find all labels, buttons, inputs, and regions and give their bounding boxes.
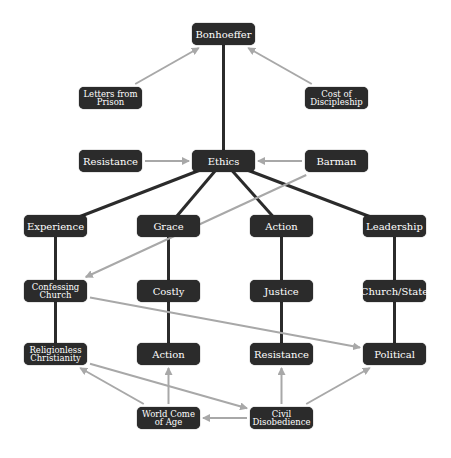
node-label: Ethics — [208, 157, 240, 166]
node-cost[interactable]: Cost of Discipleship — [305, 87, 368, 109]
arrow-edge-worldcome-religionless — [80, 368, 144, 404]
arrow-edge-cost-bonhoeffer — [248, 48, 312, 84]
node-political[interactable]: Political — [363, 343, 426, 365]
node-label: Resistance — [254, 350, 309, 359]
node-costly[interactable]: Costly — [137, 280, 200, 302]
node-experience[interactable]: Experience — [24, 215, 87, 237]
node-bonhoeffer[interactable]: Bonhoeffer — [192, 23, 255, 45]
node-resistance_top[interactable]: Resistance — [79, 150, 142, 172]
node-label: Grace — [153, 222, 183, 231]
node-ethics[interactable]: Ethics — [192, 150, 255, 172]
arrow-edge-letters-bonhoeffer — [135, 48, 199, 84]
node-civil[interactable]: Civil Disobedience — [250, 407, 313, 429]
node-confessing[interactable]: Confessing Church — [24, 280, 87, 302]
arrow-edge-confessing-political — [90, 297, 360, 347]
node-label: Letters from Prison — [81, 90, 140, 106]
node-label: Church/State — [361, 287, 429, 296]
node-action_top[interactable]: Action — [250, 215, 313, 237]
node-letters[interactable]: Letters from Prison — [79, 87, 142, 109]
node-leadership[interactable]: Leadership — [363, 215, 426, 237]
node-label: Action — [152, 350, 185, 359]
node-label: Costly — [153, 287, 185, 296]
node-label: Resistance — [83, 157, 138, 166]
node-justice[interactable]: Justice — [250, 280, 313, 302]
node-label: Religionless Christianity — [26, 346, 85, 362]
node-label: Civil Disobedience — [252, 410, 311, 426]
node-grace[interactable]: Grace — [137, 215, 200, 237]
node-action_bottom[interactable]: Action — [137, 343, 200, 365]
node-label: Barman — [317, 157, 357, 166]
concept-map: BonhoefferLetters from PrisonCost of Dis… — [0, 0, 451, 458]
node-label: Experience — [27, 222, 84, 231]
node-barman[interactable]: Barman — [305, 150, 368, 172]
node-label: Political — [374, 350, 415, 359]
node-label: World Come of Age — [139, 410, 198, 426]
node-label: Cost of Discipleship — [307, 90, 366, 106]
node-churchstate[interactable]: Church/State — [363, 280, 426, 302]
node-label: Action — [265, 222, 298, 231]
arrow-edge-civil-political — [306, 368, 370, 404]
node-worldcome[interactable]: World Come of Age — [137, 407, 200, 429]
node-resistance_bottom[interactable]: Resistance — [250, 343, 313, 365]
node-label: Bonhoeffer — [196, 30, 252, 39]
node-label: Justice — [264, 287, 298, 296]
node-label: Confessing Church — [26, 283, 85, 299]
node-religionless[interactable]: Religionless Christianity — [24, 343, 87, 365]
node-label: Leadership — [366, 222, 423, 231]
